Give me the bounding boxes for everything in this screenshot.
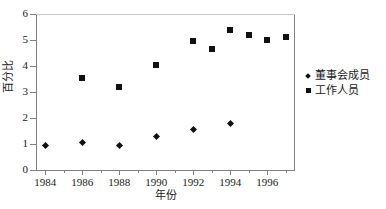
x-minor-tick-mark (64, 170, 65, 173)
x-tick-mark (119, 170, 120, 175)
data-point-square (264, 37, 270, 43)
data-point-square (190, 38, 196, 44)
data-point-square (227, 27, 233, 33)
legend-item[interactable]: 工作人员 (303, 83, 386, 98)
x-minor-tick-mark (175, 170, 176, 173)
plot-area (36, 14, 295, 170)
data-point-square (153, 62, 159, 68)
data-point-square (116, 84, 122, 90)
y-tick-label: 5 (4, 34, 28, 45)
square-marker-icon (303, 88, 313, 93)
y-tick-mark (30, 40, 36, 41)
scatter-chart: 0123456 1984198619881990199219941996 百分比… (0, 0, 386, 209)
y-axis-title: 百分比 (2, 46, 14, 106)
data-point-square (209, 46, 215, 52)
x-minor-tick-mark (212, 170, 213, 173)
x-tick-mark (230, 170, 231, 175)
x-tick-mark (156, 170, 157, 175)
y-tick-mark (30, 170, 36, 171)
y-tick-label: 6 (4, 8, 28, 19)
x-minor-tick-mark (249, 170, 250, 173)
y-tick-label: 1 (4, 138, 28, 149)
legend-item-label: 工作人员 (313, 84, 359, 97)
x-tick-mark (45, 170, 46, 175)
x-minor-tick-mark (101, 170, 102, 173)
y-tick-label: 0 (4, 164, 28, 175)
legend-item[interactable]: 董事会成员 (303, 68, 386, 83)
y-tick-mark (30, 144, 36, 145)
x-tick-mark (82, 170, 83, 175)
x-axis-line (36, 170, 295, 171)
y-tick-mark (30, 92, 36, 93)
marker-glyph (305, 73, 311, 79)
y-tick-mark (30, 14, 36, 15)
x-axis-title: 年份 (36, 189, 295, 201)
data-point-square (79, 75, 85, 81)
y-tick-mark (30, 118, 36, 119)
diamond-marker-icon (303, 74, 313, 78)
legend-item-label: 董事会成员 (313, 69, 370, 82)
y-tick-mark (30, 66, 36, 67)
x-minor-tick-mark (138, 170, 139, 173)
x-tick-label: 1996 (245, 176, 289, 188)
plot-top-border (36, 14, 295, 15)
chart-legend: 董事会成员工作人员 (303, 68, 386, 98)
x-tick-mark (193, 170, 194, 175)
y-tick-label: 2 (4, 112, 28, 123)
marker-glyph (306, 88, 311, 93)
x-tick-mark (267, 170, 268, 175)
x-minor-tick-mark (286, 170, 287, 173)
data-point-square (283, 34, 289, 40)
data-point-square (246, 32, 252, 38)
